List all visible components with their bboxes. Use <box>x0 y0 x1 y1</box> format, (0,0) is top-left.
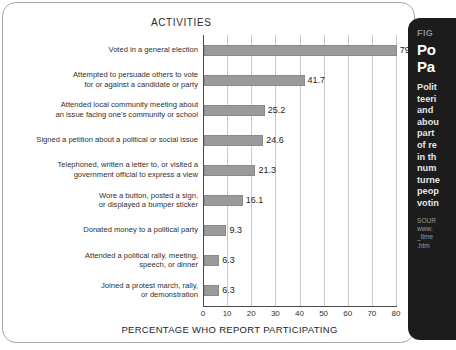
bar-value-label: 21.3 <box>258 165 276 176</box>
bar-category-label: Telephoned, written a letter to, or visi… <box>8 160 198 179</box>
bar-category-label: Attempted to persuade others to vote for… <box>8 70 198 89</box>
bar-value-label: 6.3 <box>222 255 235 266</box>
bar <box>204 195 243 206</box>
bar-category-label: Voted in a general election <box>8 45 198 55</box>
side-panel-body: Polit teeri and abou part of re in th nu… <box>417 82 456 210</box>
bar-category-label: Attended local community meeting about a… <box>8 100 198 119</box>
bar <box>204 105 265 116</box>
x-tick-label: 10 <box>223 309 232 318</box>
side-panel-source: SOUR www. _time .htm <box>417 217 456 251</box>
bar-value-label: 16.1 <box>246 195 264 206</box>
x-tick-label: 30 <box>271 309 280 318</box>
side-panel-figure-number: FIG <box>417 28 456 38</box>
bar-rows: Voted in a general election79.9Attempted… <box>3 3 416 344</box>
bar-category-label: Joined a protest march, rally, or demons… <box>8 281 198 300</box>
bar-category-label: Attended a political rally, meeting, spe… <box>8 251 198 270</box>
bar-value-label: 25.2 <box>268 105 286 116</box>
bar-value-label: 41.7 <box>308 75 326 86</box>
bar <box>204 135 263 146</box>
x-tick-label: 60 <box>343 309 352 318</box>
bar <box>204 285 219 296</box>
bar <box>204 75 305 86</box>
bar-value-label: 9.3 <box>229 225 242 236</box>
chart-card: ACTIVITIES Voted in a general election79… <box>2 2 415 343</box>
x-axis-title: PERCENTAGE WHO REPORT PARTICIPATING <box>3 324 416 335</box>
x-tick-label: 0 <box>201 309 205 318</box>
bar <box>204 45 397 56</box>
bar <box>204 165 255 176</box>
side-panel-title: Po Pa <box>417 41 456 75</box>
bar-category-label: Signed a petition about a political or s… <box>8 135 198 145</box>
bar-category-label: Donated money to a political party <box>8 225 198 235</box>
bar <box>204 225 226 236</box>
bar <box>204 255 219 266</box>
bar-category-label: Wore a button, posted a sign, or display… <box>8 191 198 210</box>
side-panel: FIG Po Pa Polit teeri and abou part of r… <box>408 18 456 340</box>
x-tick-label: 50 <box>319 309 328 318</box>
bar-value-label: 24.6 <box>266 135 284 146</box>
x-tick-label: 80 <box>392 309 401 318</box>
bar-value-label: 6.3 <box>222 285 235 296</box>
x-tick-label: 20 <box>247 309 256 318</box>
x-tick-label: 40 <box>295 309 304 318</box>
x-tick-label: 70 <box>367 309 376 318</box>
